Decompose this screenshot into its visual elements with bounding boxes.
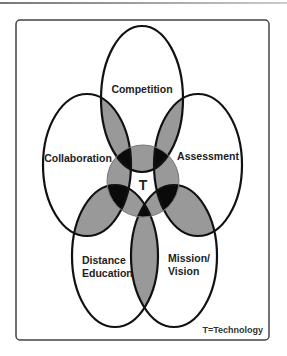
label-mission-line2: Vision: [168, 265, 199, 277]
label-distance-line2: Education: [82, 267, 133, 279]
label-distance-line1: Distance: [82, 254, 126, 266]
label-competition: Competition: [111, 83, 172, 95]
label-collaboration: Collaboration: [44, 152, 112, 164]
venn-diagram: Competition Collaboration Assessment T D…: [0, 0, 287, 356]
label-assessment: Assessment: [177, 150, 239, 162]
label-mission-line1: Mission/: [168, 252, 210, 264]
label-technology: T: [139, 177, 148, 193]
legend-technology: T=Technology: [202, 325, 263, 335]
